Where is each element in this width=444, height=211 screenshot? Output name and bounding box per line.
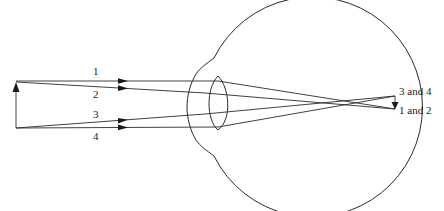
ray-3-arrowhead-icon xyxy=(118,118,128,124)
image-label-1-and-2: 1 and 2 xyxy=(399,104,431,116)
eye-optics-diagram: 1 2 3 4 3 and 4 1 and 2 xyxy=(0,0,444,211)
object-arrowhead-icon xyxy=(13,82,20,92)
image-arrow xyxy=(392,96,399,110)
ray-3-label: 3 xyxy=(93,108,99,120)
ray-2-arrowhead-icon xyxy=(118,85,128,91)
ray-2-label: 2 xyxy=(93,88,99,100)
lens xyxy=(209,76,228,130)
object-arrow xyxy=(13,82,20,128)
image-label-3-and-4: 3 and 4 xyxy=(399,85,432,97)
ray-2 xyxy=(16,82,395,109)
ray-1-label: 1 xyxy=(93,65,99,77)
ray-4-arrowhead-icon xyxy=(118,125,128,131)
ray-3 xyxy=(16,96,395,128)
ray-4-label: 4 xyxy=(93,130,99,142)
ray-1-arrowhead-icon xyxy=(118,78,128,84)
eyeball-outline xyxy=(187,0,422,211)
